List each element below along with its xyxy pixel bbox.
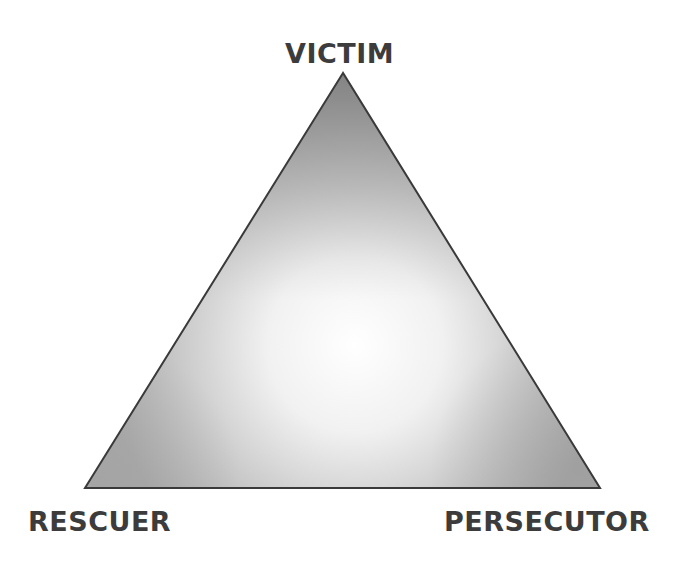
persecutor-label: PERSECUTOR — [444, 508, 650, 535]
triangle-shape — [0, 0, 692, 564]
drama-triangle-diagram: VICTIM RESCUER PERSECUTOR — [0, 0, 692, 564]
rescuer-label: RESCUER — [28, 508, 171, 535]
victim-label: VICTIM — [285, 40, 394, 67]
